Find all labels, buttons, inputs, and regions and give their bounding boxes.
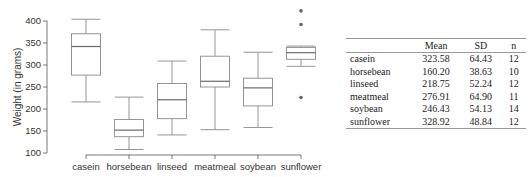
cell-feed: soybean: [346, 103, 412, 116]
iqr-box: [201, 56, 230, 87]
y-tick-label: 400: [25, 15, 41, 26]
boxes: [72, 9, 316, 149]
y-tick-label: 300: [25, 59, 41, 70]
outlier-point: [299, 9, 303, 13]
box-casein: [72, 19, 101, 102]
y-axis: 100150200250300350400: [25, 15, 47, 158]
header-n: n: [502, 39, 526, 53]
cell-mean: 276.91: [412, 91, 460, 104]
x-axis: caseinhorsebeanlinseedmeatmealsoybeansun…: [72, 155, 321, 172]
cell-feed: meatmeal: [346, 91, 412, 104]
y-tick-label: 250: [25, 81, 41, 92]
table-row: soybean 246.43 54.13 14: [346, 103, 526, 116]
outlier-point: [299, 96, 303, 100]
table-row: linseed 218.75 52.24 12: [346, 78, 526, 91]
y-tick-label: 100: [25, 147, 41, 158]
x-tick-label: horsebean: [107, 161, 152, 172]
cell-n: 12: [502, 78, 526, 91]
cell-feed: casein: [346, 53, 412, 66]
x-tick-label: linseed: [157, 161, 187, 172]
x-tick-label: casein: [72, 161, 99, 172]
summary-table: Mean SD n casein 323.58 64.43 12 horsebe…: [346, 38, 526, 129]
cell-sd: 38.63: [460, 66, 501, 79]
cell-mean: 160.20: [412, 66, 460, 79]
cell-mean: 246.43: [412, 103, 460, 116]
cell-sd: 52.24: [460, 78, 501, 91]
iqr-box: [244, 78, 273, 106]
cell-sd: 48.84: [460, 116, 501, 129]
iqr-box: [158, 83, 187, 118]
y-tick-label: 350: [25, 37, 41, 48]
cell-n: 10: [502, 66, 526, 79]
y-axis-title: Weight (in grams): [12, 48, 23, 127]
cell-feed: horsebean: [346, 66, 412, 79]
table-row: horsebean 160.20 38.63 10: [346, 66, 526, 79]
outlier-point: [299, 23, 303, 27]
summary-table-container: Mean SD n casein 323.58 64.43 12 horsebe…: [346, 38, 526, 129]
iqr-box: [287, 47, 316, 59]
cell-feed: sunflower: [346, 116, 412, 129]
table-row: meatmeal 276.91 64.90 11: [346, 91, 526, 104]
cell-sd: 54.13: [460, 103, 501, 116]
y-tick-label: 200: [25, 103, 41, 114]
boxplot-chart: 100150200250300350400 caseinhorsebeanlin…: [0, 0, 340, 177]
cell-mean: 323.58: [412, 53, 460, 66]
box-horsebean: [115, 97, 144, 149]
cell-n: 12: [502, 53, 526, 66]
iqr-box: [72, 34, 101, 75]
cell-sd: 64.43: [460, 53, 501, 66]
x-tick-label: sunflower: [281, 161, 322, 172]
header-feed: [346, 39, 412, 53]
x-tick-label: soybean: [240, 161, 276, 172]
cell-feed: linseed: [346, 78, 412, 91]
header-sd: SD: [460, 39, 501, 53]
box-linseed: [158, 61, 187, 135]
table-row: casein 323.58 64.43 12: [346, 53, 526, 66]
header-mean: Mean: [412, 39, 460, 53]
box-soybean: [244, 52, 273, 127]
box-sunflower: [287, 9, 316, 99]
cell-mean: 328.92: [412, 116, 460, 129]
box-meatmeal: [201, 30, 230, 130]
cell-n: 12: [502, 116, 526, 129]
y-tick-label: 150: [25, 125, 41, 136]
cell-mean: 218.75: [412, 78, 460, 91]
cell-n: 11: [502, 91, 526, 104]
table-header-row: Mean SD n: [346, 39, 526, 53]
table-row: sunflower 328.92 48.84 12: [346, 116, 526, 129]
iqr-box: [115, 120, 144, 137]
cell-n: 14: [502, 103, 526, 116]
cell-sd: 64.90: [460, 91, 501, 104]
x-tick-label: meatmeal: [194, 161, 236, 172]
